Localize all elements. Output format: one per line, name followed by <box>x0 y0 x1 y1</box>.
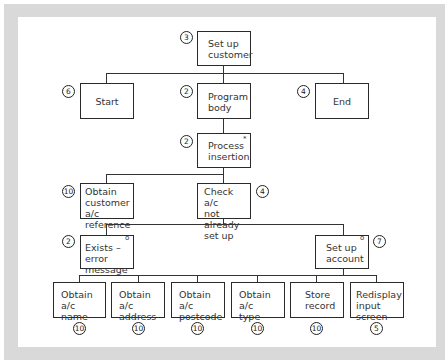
node-score-badge: 4 <box>256 185 269 198</box>
node-score-badge: 3 <box>180 31 193 44</box>
connector <box>197 275 198 282</box>
node-label: Obtain a/c name <box>61 289 93 322</box>
connector <box>316 275 317 282</box>
connector <box>257 275 258 282</box>
connector <box>223 118 224 133</box>
node-label: Start <box>95 96 118 107</box>
node-end: End <box>315 83 369 119</box>
node-score-badge: 10 <box>62 185 75 198</box>
node-store-record: Store record <box>290 282 344 318</box>
node-check-not-set-up: Check a/c not already set up <box>197 183 251 219</box>
node-redisplay-input: Redisplay input screen <box>350 282 404 318</box>
node-score-badge: 2 <box>180 135 193 148</box>
connector <box>106 174 224 175</box>
node-score-badge: 10 <box>251 322 264 335</box>
selection-marker: o <box>125 235 129 242</box>
node-obtain-type: Obtain a/c type <box>231 282 285 318</box>
connector <box>376 275 377 282</box>
node-label: Obtain customer a/c reference <box>85 186 130 230</box>
node-label: Obtain a/c postcode <box>179 289 222 322</box>
node-obtain-address: Obtain a/c address <box>111 282 165 318</box>
node-label: Obtain a/c type <box>239 289 271 322</box>
connector <box>138 275 139 282</box>
node-label: Program body <box>208 91 248 113</box>
node-score-badge: 10 <box>310 322 323 335</box>
connector <box>343 268 344 275</box>
node-program-body: Program body <box>197 83 251 119</box>
node-label: Obtain a/c address <box>119 289 156 322</box>
node-score-badge: 10 <box>73 322 86 335</box>
node-score-badge: 2 <box>62 235 75 248</box>
selection-marker: o <box>360 235 364 242</box>
node-label: End <box>333 96 351 107</box>
node-score-badge: 10 <box>191 322 204 335</box>
node-score-badge: 5 <box>370 322 383 335</box>
connector <box>106 73 107 83</box>
connector <box>79 275 377 276</box>
node-score-badge: 4 <box>297 85 310 98</box>
connector <box>106 73 344 74</box>
node-label: Store record <box>305 289 335 311</box>
node-label: Set up customer <box>208 38 253 60</box>
node-start: Start <box>80 83 134 119</box>
node-score-badge: 2 <box>180 85 193 98</box>
node-label: Process insertion <box>208 140 250 162</box>
connector <box>343 73 344 83</box>
connector <box>106 174 107 183</box>
connector <box>223 65 224 73</box>
node-label: Redisplay input screen <box>356 289 402 322</box>
connector <box>79 275 80 282</box>
node-label: Exists – error message <box>85 242 128 275</box>
node-obtain-name: Obtain a/c name <box>53 282 106 318</box>
node-obtain-customer-ref: Obtain customer a/c reference <box>80 183 134 219</box>
node-score-badge: 6 <box>62 85 75 98</box>
node-set-up-customer: Set up customer <box>197 31 251 66</box>
node-score-badge: 7 <box>373 235 386 248</box>
connector <box>343 224 344 235</box>
iteration-marker: * <box>243 136 247 143</box>
node-score-badge: 10 <box>132 322 145 335</box>
connector <box>223 73 224 83</box>
node-label: Set up account <box>326 242 364 264</box>
node-obtain-postcode: Obtain a/c postcode <box>171 282 225 318</box>
